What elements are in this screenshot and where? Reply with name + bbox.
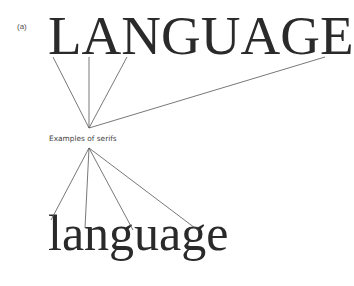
- pointer-line-lower-1: [51, 148, 89, 220]
- pointer-line-lower-2: [85, 148, 89, 228]
- pointer-line-lower-4: [89, 148, 199, 231]
- pointer-line-upper-1: [53, 57, 89, 128]
- pointer-line-upper-4: [89, 57, 325, 128]
- pointer-line-lower-3: [89, 148, 133, 230]
- pointer-line-upper-3: [89, 57, 127, 128]
